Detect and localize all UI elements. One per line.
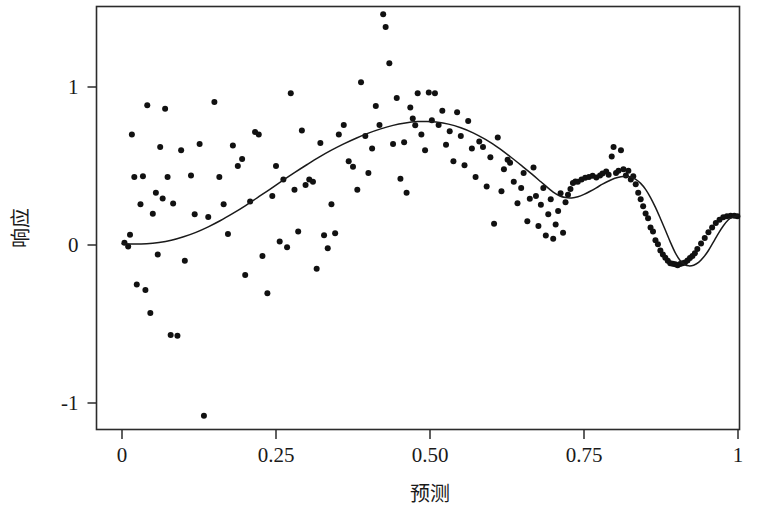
data-point: [511, 179, 517, 185]
data-point: [633, 181, 639, 187]
data-point: [563, 199, 569, 205]
data-point: [197, 141, 203, 147]
data-point: [225, 231, 231, 237]
data-point: [618, 147, 624, 153]
data-point: [538, 202, 544, 208]
data-point: [426, 90, 432, 96]
x-tick-label: 0.25: [258, 443, 295, 467]
data-point: [443, 142, 449, 148]
data-point: [188, 172, 194, 178]
data-point: [705, 229, 711, 235]
data-point: [694, 246, 700, 252]
data-point: [325, 245, 331, 251]
data-point: [157, 144, 163, 150]
data-point: [394, 95, 400, 101]
data-point: [288, 90, 294, 96]
data-point: [548, 196, 554, 202]
data-point: [473, 174, 479, 180]
data-point: [221, 201, 227, 207]
data-point: [565, 192, 571, 198]
data-point: [555, 208, 561, 214]
x-tick-label: 0.75: [566, 443, 603, 467]
data-point: [256, 131, 262, 137]
data-point: [530, 165, 536, 171]
data-point: [369, 146, 375, 152]
data-point: [638, 196, 644, 202]
data-point: [137, 201, 143, 207]
data-point: [645, 215, 651, 221]
y-tick-label: 0: [68, 233, 79, 257]
data-point: [410, 116, 416, 122]
data-point: [491, 221, 497, 227]
data-point: [153, 190, 159, 196]
data-point: [609, 154, 615, 160]
data-point: [350, 164, 356, 170]
data-point: [160, 195, 166, 201]
data-point: [439, 108, 445, 114]
data-point: [165, 174, 171, 180]
data-point: [147, 310, 153, 316]
data-point: [216, 174, 222, 180]
data-point: [328, 201, 334, 207]
data-point: [314, 266, 320, 272]
data-point: [418, 131, 424, 137]
data-point: [454, 109, 460, 115]
data-point: [144, 102, 150, 108]
data-point: [346, 158, 352, 164]
data-point: [174, 333, 180, 339]
data-point: [535, 223, 541, 229]
data-point: [709, 225, 715, 231]
chart-background: [0, 0, 760, 516]
data-point: [358, 79, 364, 85]
data-point: [134, 282, 140, 288]
chart-figure: 00.250.500.751 -101 预测 响应: [0, 0, 760, 516]
data-point: [354, 187, 360, 193]
data-point: [484, 184, 490, 190]
data-point: [376, 122, 382, 128]
data-point: [284, 244, 290, 250]
data-point: [487, 154, 493, 160]
data-point: [518, 185, 524, 191]
data-point: [606, 172, 612, 178]
data-point: [447, 128, 453, 134]
data-point: [635, 190, 641, 196]
data-point: [317, 140, 323, 146]
data-point: [129, 131, 135, 137]
data-point: [155, 251, 161, 257]
data-point: [702, 235, 708, 241]
data-point: [625, 168, 631, 174]
data-point: [495, 135, 501, 141]
data-point: [650, 229, 656, 235]
data-point: [469, 146, 475, 152]
data-point: [131, 174, 137, 180]
data-point: [507, 160, 513, 166]
data-point: [553, 221, 559, 227]
data-point: [201, 413, 207, 419]
data-point: [182, 258, 188, 264]
data-point: [698, 240, 704, 246]
data-point: [295, 229, 301, 235]
data-point: [303, 182, 309, 188]
data-point: [142, 287, 148, 293]
data-point: [239, 156, 245, 162]
data-point: [178, 147, 184, 153]
data-point: [269, 193, 275, 199]
data-point: [291, 187, 297, 193]
data-point: [336, 131, 342, 137]
data-point: [611, 144, 617, 150]
data-point: [170, 201, 176, 207]
data-point: [560, 230, 566, 236]
data-point: [480, 144, 486, 150]
data-point: [640, 203, 646, 209]
data-point: [465, 118, 471, 124]
data-point: [192, 211, 198, 217]
data-point: [310, 179, 316, 185]
scatter-plot-svg: 00.250.500.751 -101 预测 响应: [0, 0, 760, 516]
data-point: [264, 290, 270, 296]
data-point: [127, 232, 133, 238]
data-point: [501, 166, 507, 172]
data-point: [498, 188, 504, 194]
data-point: [397, 176, 403, 182]
data-point: [332, 230, 338, 236]
data-point: [235, 163, 241, 169]
